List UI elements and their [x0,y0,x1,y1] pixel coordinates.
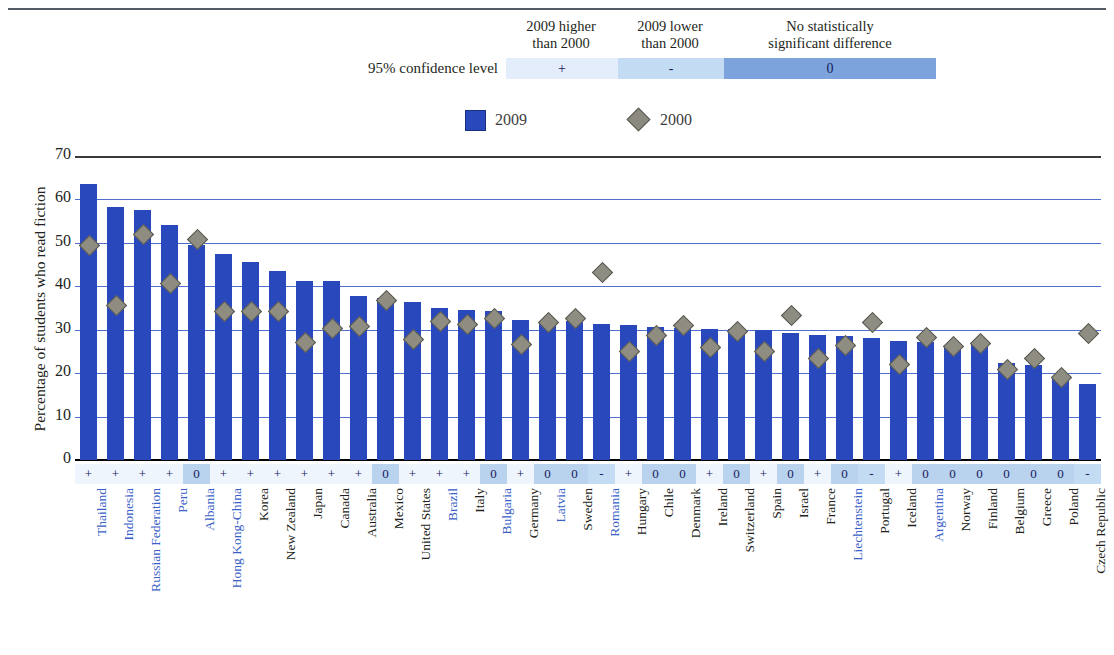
significance-cell-brazil: + [426,464,453,484]
bar-united-states [404,302,421,460]
significance-cell-korea: + [237,464,264,484]
significance-legend: 2009 higher than 2000 2009 lower than 20… [506,18,936,84]
bar-korea [242,262,259,460]
gridline-50 [75,243,1101,244]
significance-cell-mexico: 0 [372,464,399,484]
significance-cell-france: + [804,464,831,484]
diamond-marker-israel [780,305,801,326]
x-label-thailand: Thailand [94,488,110,536]
x-label-brazil: Brazil [445,488,461,521]
x-label-chile: Chile [661,488,677,517]
significance-cell-germany: + [507,464,534,484]
x-label-hong-kong-china: Hong Kong-China [229,488,245,588]
significance-cell-ireland: + [696,464,723,484]
x-label-australia: Australia [364,488,380,538]
x-label-iceland: Iceland [904,488,920,528]
significance-cell-italy: + [453,464,480,484]
bar-hong-kong-china [215,254,232,460]
significance-cell-argentina: 0 [912,464,939,484]
significance-cell-new-zealand: + [264,464,291,484]
significance-cell-czech-republic: - [1074,464,1101,484]
x-label-hungary: Hungary [634,488,650,535]
significance-cell-albania: 0 [183,464,210,484]
x-label-spain: Spain [769,488,785,519]
y-tick-label-10: 10 [29,406,71,424]
x-label-korea: Korea [256,488,272,521]
x-label-albania: Albania [202,488,218,531]
x-label-switzerland: Switzerland [742,488,758,552]
x-label-belgium: Belgium [1012,488,1028,535]
bar-romania [593,324,610,460]
x-axis-country-labels: ThailandIndonesiaRussian FederationPeruA… [75,488,1101,648]
significance-cell-japan: + [291,464,318,484]
x-label-peru: Peru [175,488,191,513]
bar-poland [1052,376,1069,460]
significance-header-nodiff-line1: No statistically [724,18,936,35]
significance-cell-poland: 0 [1047,464,1074,484]
y-tick-label-50: 50 [29,232,71,250]
significance-band-higher: + [506,58,618,79]
significance-header-higher-line2: than 2000 [506,35,616,52]
bar-japan [296,281,313,460]
gridline-60 [75,199,1101,200]
bar-chile [647,327,664,460]
significance-cell-greece: 0 [1020,464,1047,484]
x-label-portugal: Portugal [877,488,893,534]
bar-peru [161,225,178,460]
x-label-israel: Israel [796,488,812,518]
significance-cell-switzerland: 0 [723,464,750,484]
bar-greece [1025,365,1042,460]
confidence-level-label: 95% confidence level [340,60,498,77]
significance-cell-canada: + [318,464,345,484]
legend-diamond-icon [626,107,650,131]
significance-header-nodiff-line2: significant difference [724,35,936,52]
bar-bulgaria [485,311,502,460]
significance-cell-latvia: 0 [534,464,561,484]
bar-norway [944,345,961,460]
x-label-ireland: Ireland [715,488,731,526]
chart-figure: 2009 higher than 2000 2009 lower than 20… [0,0,1114,655]
significance-cell-thailand: + [75,464,102,484]
legend-label-2000: 2000 [660,108,692,132]
significance-cell-finland: 0 [966,464,993,484]
significance-cell-belgium: 0 [993,464,1020,484]
bar-albania [188,245,205,460]
significance-cell-romania: - [588,464,615,484]
bar-finland [971,344,988,460]
x-label-czech-republic: Czech Republic [1093,488,1109,574]
significance-cell-liechtenstein: 0 [831,464,858,484]
significance-cell-iceland: + [885,464,912,484]
significance-cell-israel: 0 [777,464,804,484]
y-tick-label-30: 30 [29,319,71,337]
x-label-indonesia: Indonesia [121,488,137,540]
bar-new-zealand [269,271,286,460]
x-label-norway: Norway [958,488,974,532]
legend-label-2009: 2009 [495,108,527,132]
x-label-russian-federation: Russian Federation [148,488,164,592]
significance-cell-sweden: 0 [561,464,588,484]
y-tick-label-40: 40 [29,275,71,293]
x-label-latvia: Latvia [553,488,569,522]
x-label-argentina: Argentina [931,488,947,542]
x-label-germany: Germany [526,488,542,538]
x-label-united-states: United States [418,488,434,560]
bar-latvia [539,321,556,460]
series-legend: 2009 2000 [465,108,785,134]
significance-cell-norway: 0 [939,464,966,484]
x-label-romania: Romania [607,488,623,537]
bar-sweden [566,321,583,460]
x-label-mexico: Mexico [391,488,407,529]
diamond-marker-romania [591,262,612,283]
bar-switzerland [728,329,745,460]
y-tick-label-0: 0 [29,449,71,467]
significance-cell-chile: 0 [642,464,669,484]
x-label-sweden: Sweden [580,488,596,531]
significance-cell-russian-federation: + [129,464,156,484]
x-label-denmark: Denmark [688,488,704,538]
significance-cell-australia: + [345,464,372,484]
bar-indonesia [107,207,124,460]
x-label-finland: Finland [985,488,1001,529]
significance-band-nodiff: 0 [724,58,936,79]
significance-cell-hong-kong-china: + [210,464,237,484]
bar-israel [782,333,799,460]
